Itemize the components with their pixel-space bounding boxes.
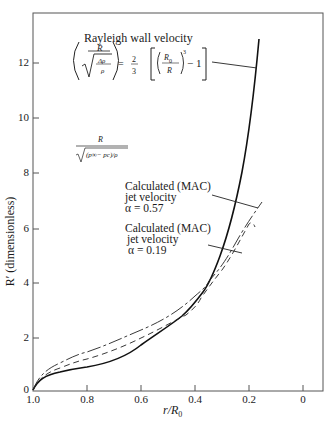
eq-r: R xyxy=(167,65,172,76)
eq-rho: ρ xyxy=(101,66,104,77)
eq-two: 2 xyxy=(132,54,136,65)
x-tick-0.2: 0.2 xyxy=(237,393,261,405)
y-axis-label: R′ (dimensionless) xyxy=(5,197,16,287)
eq-cube: 3 xyxy=(183,47,186,58)
plot-frame xyxy=(33,13,323,391)
x-tick-0.6: 0.6 xyxy=(129,393,153,405)
side-frac-num: R xyxy=(98,134,103,145)
y-tick-6: 6 xyxy=(15,222,29,234)
x-tick-1.0: 1.0 xyxy=(21,393,45,405)
y-ticks xyxy=(33,63,39,338)
eq-left-paren xyxy=(74,42,80,80)
eq-left-bracket xyxy=(151,48,155,80)
y-tick-4: 4 xyxy=(15,276,29,288)
y-tick-10: 10 xyxy=(15,111,29,123)
x-ticks xyxy=(87,385,303,391)
y-tick-8: 8 xyxy=(15,166,29,178)
eq-minus-one: − 1 xyxy=(187,58,201,69)
pointer-mac-019 xyxy=(208,245,242,253)
x-tick-0.4: 0.4 xyxy=(183,393,207,405)
eq-three: 3 xyxy=(132,66,136,77)
pointer-rayleigh xyxy=(212,62,257,68)
mac019-line3: α = 0.19 xyxy=(128,245,166,256)
x-tick-0.8: 0.8 xyxy=(75,393,99,405)
side-frac-den: (p∞− pc)/ρ xyxy=(86,150,118,161)
eq-right-bracket xyxy=(202,48,206,80)
y-tick-12: 12 xyxy=(15,56,29,68)
eq-inner-left-paren xyxy=(158,52,161,74)
eq-equals: = xyxy=(118,58,124,69)
x-tick-0: 0 xyxy=(291,393,315,405)
x-axis-label: r/R0 xyxy=(163,405,182,420)
y-tick-2: 2 xyxy=(15,331,29,343)
mac057-line3: α = 0.57 xyxy=(125,203,163,214)
eq-rdot: Ṙ xyxy=(97,43,103,54)
series-rayleigh-solid xyxy=(33,39,259,390)
eq-sqrt xyxy=(82,54,112,77)
